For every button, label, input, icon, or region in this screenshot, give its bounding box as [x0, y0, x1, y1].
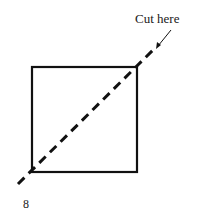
- page-number: 8: [23, 197, 29, 212]
- arrow-line: [158, 30, 171, 46]
- dashed-cut-line: [18, 49, 154, 184]
- cut-here-label: Cut here: [135, 11, 179, 27]
- diagram-canvas: [0, 0, 197, 223]
